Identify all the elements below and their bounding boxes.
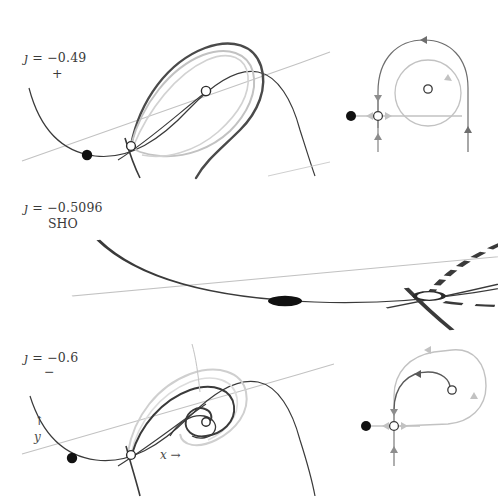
schematic-node-marker: [346, 111, 356, 121]
schematic-outer-loop: [394, 350, 486, 426]
homoclinic-bifurcation-figure: ȷ = −0.49 +: [0, 0, 498, 497]
arrowhead-inner-orbit: [444, 74, 452, 81]
arrowhead-spiral: [414, 370, 421, 378]
nullcline-line: [22, 364, 334, 454]
arrowhead-right-manifold: [385, 112, 392, 120]
arrowhead-stable-up: [390, 446, 398, 453]
arrowhead-right-manifold: [401, 422, 408, 430]
arrowhead-stable-down: [390, 409, 398, 416]
secondary-light-line: [268, 162, 330, 176]
panel-middle-graphics-wrap: [0, 178, 498, 330]
arrowhead-loop-top: [420, 36, 427, 44]
incoming-light-trajectory: [192, 344, 200, 392]
schematic-spiral-arm: [394, 372, 450, 410]
panel-bottom: ȷ = −0.6 − ↑ y x →: [0, 330, 498, 497]
schematic-spiral-focus-marker: [448, 386, 456, 394]
panel-top: ȷ = −0.49 +: [0, 0, 498, 178]
schematic-node-marker: [361, 421, 371, 431]
nullcline-line: [72, 202, 498, 296]
periodic-orbit-inner: [131, 51, 254, 156]
panel-bottom-schematic: [361, 346, 486, 466]
panel-top-graphics: [0, 0, 498, 178]
periodic-orbit-inner-secondary: [133, 56, 248, 157]
arrowhead-right-up: [464, 126, 472, 133]
stable-node-marker: [268, 296, 302, 306]
stable-node-marker: [82, 150, 92, 160]
saddle-marker: [127, 142, 136, 151]
schematic-center-marker: [424, 85, 432, 93]
arrowhead-loop-right: [470, 392, 478, 399]
schematic-saddle-marker: [390, 422, 399, 431]
panel-middle: ȷ = −0.5096 SHO: [0, 178, 498, 330]
spiral-focus-marker: [202, 418, 210, 426]
schematic-saddle-marker: [374, 112, 383, 121]
stable-node-marker: [67, 453, 77, 463]
saddle-marker: [127, 451, 136, 460]
nullcline-line: [22, 52, 330, 161]
center-marker: [201, 86, 210, 95]
arrowhead-left-manifold: [366, 112, 373, 120]
schematic-outer-loop: [378, 40, 468, 152]
panel-bottom-graphics: [0, 330, 498, 497]
saddle-marker: [415, 292, 444, 301]
arrowhead-stable-down: [374, 95, 382, 102]
panel-top-schematic: [346, 36, 472, 152]
arrowhead-left-manifold: [382, 422, 389, 430]
outer-trajectory: [128, 370, 247, 452]
nullcline-parabola: [29, 71, 315, 176]
arrowhead-stable-up: [374, 133, 382, 140]
